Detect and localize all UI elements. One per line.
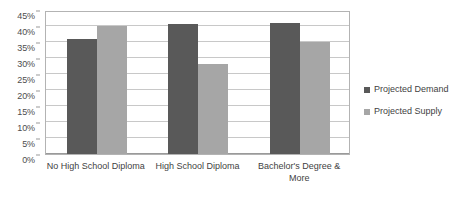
y-axis-tick-mark (36, 75, 40, 76)
legend-item[interactable]: Projected Supply (364, 106, 464, 117)
legend-label: Projected Supply (374, 106, 442, 117)
bar-group (249, 12, 351, 154)
bar-demand[interactable] (67, 39, 97, 154)
y-axis-tick-mark (36, 59, 40, 60)
y-axis-tick-mark (36, 91, 40, 92)
y-axis-tick-mark (36, 139, 40, 140)
x-axis-category-label: Bachelor's Degree & More (248, 160, 350, 184)
y-axis: 0%5%10%15%20%25%30%35%40%45% (0, 11, 40, 155)
y-axis-tick-mark (36, 11, 40, 12)
plot-area (45, 11, 350, 155)
legend-label: Projected Demand (374, 84, 449, 95)
y-axis-tick-mark (36, 107, 40, 108)
bar-group (148, 12, 250, 154)
bar-chart: 0%5%10%15%20%25%30%35%40%45% No High Sch… (0, 0, 464, 207)
x-axis: No High School DiplomaHigh School Diplom… (45, 160, 350, 202)
y-axis-tick-mark (36, 155, 40, 156)
y-axis-tick-mark (36, 27, 40, 28)
bar-group (46, 12, 148, 154)
legend-swatch-icon (364, 87, 370, 93)
bar-supply[interactable] (198, 64, 228, 154)
bar-demand[interactable] (168, 24, 198, 154)
bar-supply[interactable] (97, 26, 127, 154)
bar-demand[interactable] (270, 23, 300, 154)
x-axis-category-label: No High School Diploma (45, 160, 147, 172)
legend-swatch-icon (364, 109, 370, 115)
bar-supply[interactable] (300, 42, 330, 154)
x-axis-category-label: High School Diploma (147, 160, 249, 172)
chart-legend: Projected DemandProjected Supply (364, 84, 464, 128)
y-axis-tick-mark (36, 123, 40, 124)
legend-item[interactable]: Projected Demand (364, 84, 464, 95)
y-axis-tick-mark (36, 43, 40, 44)
